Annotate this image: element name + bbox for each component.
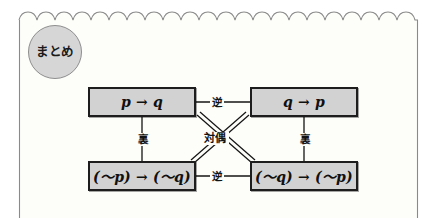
diagram-connectors <box>0 0 435 218</box>
edge-label-converse-top: 逆 <box>210 96 224 109</box>
box-p-implies-q-label: p → q <box>121 94 163 110</box>
box-q-implies-p: q → p <box>250 87 358 117</box>
edge-label-converse-bottom: 逆 <box>210 170 224 183</box>
page-root: まとめ p → q q → p (～p) → (～q) <box>0 0 435 218</box>
edge-label-inverse-right: 裏 <box>298 133 312 146</box>
edge-label-inverse-left: 裏 <box>136 133 150 146</box>
box-not-p-implies-not-q: (～p) → (～q) <box>88 161 196 191</box>
box-not-p-implies-not-q-label: (～p) → (～q) <box>93 166 191 186</box>
box-q-implies-p-label: q → p <box>283 94 325 110</box>
box-not-q-implies-not-p: (～q) → (～p) <box>250 161 358 191</box>
edge-label-contrapositive: 対偶 <box>201 132 229 145</box>
box-p-implies-q: p → q <box>88 87 196 117</box>
box-not-q-implies-not-p-label: (～q) → (～p) <box>255 166 353 186</box>
